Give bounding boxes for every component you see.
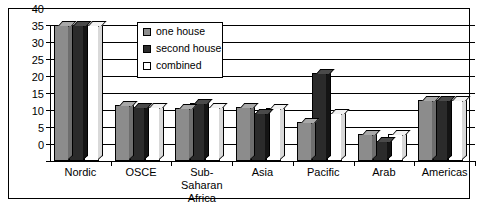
second-house-swatch [143,45,151,53]
chart-frame: 0510152025303540 NordicOSCESub-SaharanAf… [8,8,470,199]
bar-front-face [359,135,372,160]
bar-top-face [316,69,335,74]
legend-item: one house [138,23,222,40]
x-category-label-line: Nordic [50,166,111,179]
x-category-label-line: Asia [232,166,293,179]
x-axis-line [50,161,476,162]
bar-front-face [55,26,68,160]
y-tick-mark [46,161,51,162]
y-tick-mark [46,93,51,94]
bar-side-face [159,103,164,160]
bar-front-face [176,109,189,160]
y-tick-mark [46,110,51,111]
bar-side-face [326,69,331,160]
x-category-label-line: Americas [414,166,475,179]
x-category-label-line: Sub- [171,166,232,179]
bar [297,122,312,161]
bar-side-face [341,110,346,160]
y-tick-mark [46,25,51,26]
y-tick-label: 0 [18,140,44,151]
legend-item: second house [138,40,222,57]
bar-group [297,25,342,161]
bar [115,105,130,161]
legend-item-label: second house [156,43,221,54]
x-category-label: Americas [414,166,475,179]
legend-item-label: combined [156,60,202,71]
bar-top-face [452,96,471,101]
y-tick-mark [46,127,51,128]
bar-group [236,25,281,161]
bar-front-face [419,101,432,160]
chart-legend: one housesecond housecombined [137,22,223,78]
chart-screenshot: 0510152025303540 NordicOSCESub-SaharanAf… [0,0,478,207]
bar-top-face [392,130,411,135]
x-category-label: Nordic [50,166,111,179]
x-tick-mark [475,161,476,166]
bar-top-face [331,109,350,114]
bar-side-face [68,21,73,160]
bar [358,134,373,161]
bar [175,108,190,161]
bar-side-face [189,105,194,160]
x-category-label: Arab [354,166,415,179]
y-tick-label: 35 [18,21,44,32]
bar [418,100,433,161]
bar-side-face [250,103,255,160]
bar-side-face [265,110,270,160]
y-tick-mark [46,144,51,145]
bar-top-face [119,101,138,106]
y-axis-tick-labels: 0510152025303540 [17,9,44,145]
bar [54,25,69,161]
bar-group [358,25,403,161]
y-tick-label: 20 [18,72,44,83]
y-tick-label: 25 [18,55,44,66]
bar-front-face [116,106,129,160]
y-tick-mark [46,42,51,43]
legend-item-label: one house [156,26,205,37]
bar-side-face [432,96,437,160]
bar-side-face [219,103,224,160]
bar-front-face [237,108,250,160]
y-tick-label: 5 [18,123,44,134]
bar-side-face [204,100,209,160]
bar-group [418,25,463,161]
bar-side-face [462,96,467,160]
bar-side-face [280,105,285,160]
y-tick-label: 10 [18,106,44,117]
one-house-swatch [143,28,151,36]
x-category-label-line: OSCE [111,166,172,179]
x-category-label: Asia [232,166,293,179]
y-tick-mark [46,59,51,60]
bar-side-face [311,118,316,160]
combined-swatch [143,62,151,70]
y-tick-label: 30 [18,38,44,49]
x-category-label: Pacific [293,166,354,179]
legend-item: combined [138,57,222,74]
x-category-label-line: Pacific [293,166,354,179]
bar-top-face [240,103,259,108]
bar-side-face [83,21,88,160]
y-tick-mark [46,76,51,77]
x-category-label: OSCE [111,166,172,179]
x-category-label: Sub-SaharanAfrica [171,166,232,205]
bar-side-face [98,21,103,160]
bar-side-face [144,103,149,160]
bar-top-face [362,130,381,135]
bar-group [54,25,99,161]
x-category-label-line: Arab [354,166,415,179]
bar-front-face [298,123,311,160]
bar-side-face [129,101,134,160]
x-category-label-line: Africa [171,192,232,205]
bar-top-face [209,103,228,108]
bar [236,107,251,161]
y-tick-label: 15 [18,89,44,100]
x-axis-category-labels: NordicOSCESub-SaharanAfricaAsiaPacificAr… [50,166,475,207]
plot-area [50,25,475,161]
y-tick-label: 40 [18,4,44,15]
bar-side-face [447,96,452,160]
x-category-label-line: Saharan [171,179,232,192]
